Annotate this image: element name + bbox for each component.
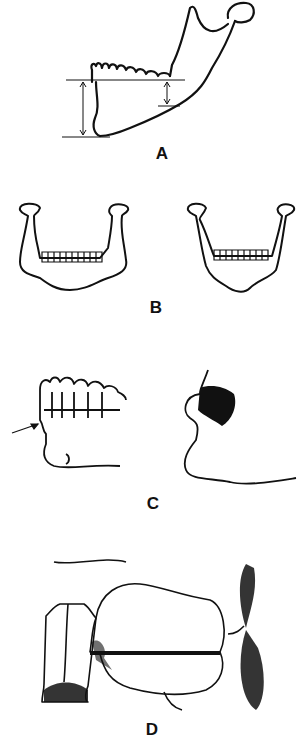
panel-label-d: D (142, 720, 162, 740)
panel-label-c: C (143, 494, 163, 514)
panel-label-b: B (146, 298, 166, 318)
panel-b: B (0, 180, 307, 330)
cross-section-drawing (0, 530, 307, 750)
panel-label-a: A (152, 144, 172, 164)
panel-d: D (0, 530, 307, 750)
panel-a: A (0, 0, 307, 180)
panel-c: C (0, 330, 307, 530)
